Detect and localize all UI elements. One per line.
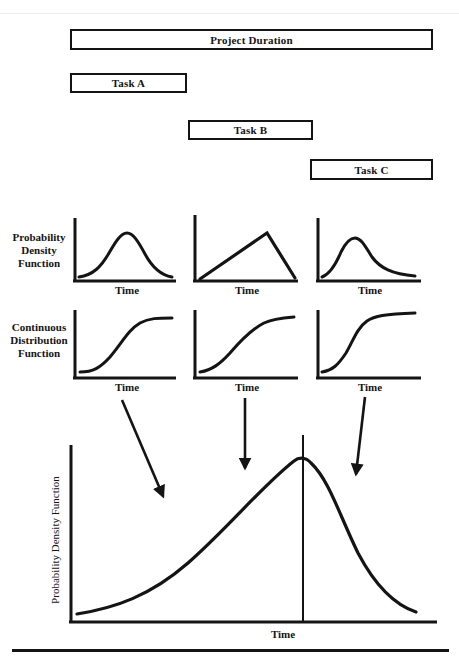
arrow-task-a — [122, 400, 163, 496]
combined-axes — [69, 445, 437, 622]
figure-artwork — [0, 0, 459, 658]
cdf-curve-task-c — [322, 313, 415, 372]
pdf-task-b-time-label: Time — [217, 284, 277, 296]
pdf-task-a-time-label: Time — [97, 284, 157, 296]
page-bottom-rule — [12, 649, 449, 652]
scanned-figure-page: Project Duration Task A Task B Task C Pr… — [0, 0, 459, 658]
pdf-task-c-time-label: Time — [340, 284, 400, 296]
pdf-curve-task-b — [200, 233, 295, 279]
pdf-curve-task-a — [79, 233, 172, 277]
combined-curve — [77, 458, 416, 614]
cdf-axes-task-a — [73, 310, 176, 378]
arrow-task-c — [356, 397, 365, 474]
cdf-curve-task-b — [200, 317, 294, 372]
combined-x-axis-label: Time — [253, 628, 313, 640]
cdf-task-b-time-label: Time — [217, 381, 277, 393]
cdf-curve-task-a — [80, 318, 172, 372]
cdf-axes-task-b — [193, 310, 298, 378]
cdf-task-c-time-label: Time — [340, 381, 400, 393]
pdf-curve-task-c — [322, 238, 415, 277]
cdf-task-a-time-label: Time — [97, 381, 157, 393]
combined-y-axis-label: Probability Density Function — [49, 460, 63, 620]
